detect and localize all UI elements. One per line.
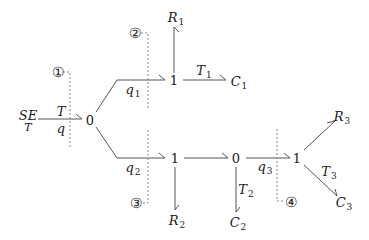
- effort-label-t1: T1: [196, 64, 211, 77]
- section-marker-1: ①: [52, 65, 65, 79]
- element-c3: C3: [336, 196, 353, 209]
- bond-lines: [0, 0, 369, 240]
- section-cut-3: [142, 130, 148, 203]
- section-marker-3: ③: [130, 196, 143, 210]
- section-cut-4: [277, 129, 285, 201]
- element-r3: R3: [334, 110, 351, 123]
- element-r2: R2: [169, 214, 186, 227]
- junction-1-a: 1: [170, 74, 178, 87]
- section-cut-2: [141, 33, 148, 108]
- effort-label-t3: T3: [321, 165, 336, 178]
- bond-j1c-to-r3: [304, 121, 335, 150]
- element-c2: C2: [230, 216, 247, 229]
- effort-label-t2: T2: [238, 183, 253, 196]
- junction-0-b: 0: [232, 152, 240, 165]
- flow-label-q3: q3: [257, 160, 272, 173]
- element-c1: C1: [231, 75, 248, 88]
- flow-label-q1: q1: [125, 83, 140, 96]
- flow-label-q2: q2: [125, 161, 140, 174]
- element-r1: R1: [168, 11, 185, 24]
- junction-1-c: 1: [293, 152, 301, 165]
- section-marker-2: ②: [129, 26, 142, 40]
- main-flow-label: q: [57, 122, 65, 135]
- source-effort-label: SET: [19, 109, 37, 133]
- section-marker-4: ④: [285, 195, 298, 209]
- bond-graph-diagram: SET T q 0 1 1 0 1 q1 q2 q3 T1 T2 T3 R1 C…: [0, 0, 369, 240]
- bond-j0a-to-j1b: [96, 127, 165, 158]
- junction-1-b: 1: [171, 152, 179, 165]
- main-effort-label: T: [57, 105, 66, 118]
- junction-0-a: 0: [86, 114, 94, 127]
